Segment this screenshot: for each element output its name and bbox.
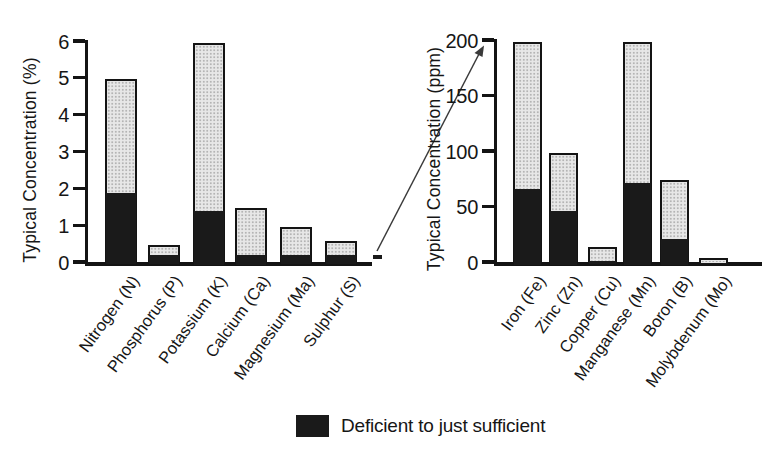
y-tick-label: 50 (456, 197, 478, 217)
y-tick (482, 260, 494, 263)
y-tick-label: 100 (446, 142, 478, 162)
bar-deficient-segment (589, 261, 616, 265)
bar-manganese-mn (623, 42, 652, 266)
y-tick (73, 76, 85, 79)
y-tick (482, 149, 494, 152)
legend: Deficient to just sufficient (296, 415, 545, 437)
bar-deficient-segment (281, 255, 311, 264)
y-tick-label: 0 (58, 253, 69, 273)
y-tick-label: 1 (58, 216, 69, 236)
bar-deficient-segment (624, 183, 651, 264)
bar-zinc-zn (549, 153, 578, 266)
y-tick-label: 5 (58, 68, 69, 88)
bar-sulphur-s (325, 241, 357, 265)
y-tick (73, 260, 85, 263)
legend-label: Deficient to just sufficient (341, 415, 545, 437)
y-tick (73, 113, 85, 116)
y-tick-label: 6 (58, 32, 69, 52)
y-tick (73, 224, 85, 227)
y-tick-label: 0 (467, 253, 478, 273)
y-axis-line (85, 40, 89, 266)
bar-deficient-segment (700, 263, 727, 264)
bar-deficient-segment (194, 211, 224, 264)
bar-iron-fe (513, 42, 542, 266)
bar-nitrogen-n (105, 79, 137, 265)
bar-calcium-ca (235, 208, 267, 265)
bar-copper-cu (588, 247, 617, 266)
legend-swatch (296, 415, 329, 437)
y-tick-label: 4 (58, 105, 69, 125)
bar-phosphorus-p (148, 245, 180, 265)
y-axis-line (494, 39, 498, 266)
bar-deficient-segment (326, 255, 356, 264)
figure: Deficient to just sufficient 0123456Typi… (0, 0, 771, 457)
y-axis-title: Typical Concentration (%) (20, 57, 41, 262)
y-tick (482, 94, 494, 97)
y-tick (73, 150, 85, 153)
bar-magnesium-ma (280, 227, 312, 266)
y-tick (73, 39, 85, 42)
y-tick (482, 38, 494, 41)
zoom-source-tick (373, 255, 382, 259)
bar-deficient-segment (550, 211, 577, 265)
bar-potassium-k (193, 43, 225, 266)
bar-deficient-segment (106, 193, 136, 265)
y-tick-label: 2 (58, 179, 69, 199)
y-tick-label: 3 (58, 142, 69, 162)
y-tick-label: 150 (446, 86, 478, 106)
bar-deficient-segment (514, 189, 541, 265)
bar-boron-b (660, 180, 689, 265)
y-axis-title: Typical Concentration (ppm) (424, 47, 445, 271)
bar-deficient-segment (661, 239, 688, 265)
bar-deficient-segment (236, 255, 266, 264)
y-tick (73, 187, 85, 190)
y-tick-label: 200 (446, 31, 478, 51)
bar-deficient-segment (149, 255, 179, 264)
category-label: Magnesium (Ma) (230, 272, 318, 383)
bar-molybdenum-mo (699, 258, 728, 266)
y-tick (482, 205, 494, 208)
